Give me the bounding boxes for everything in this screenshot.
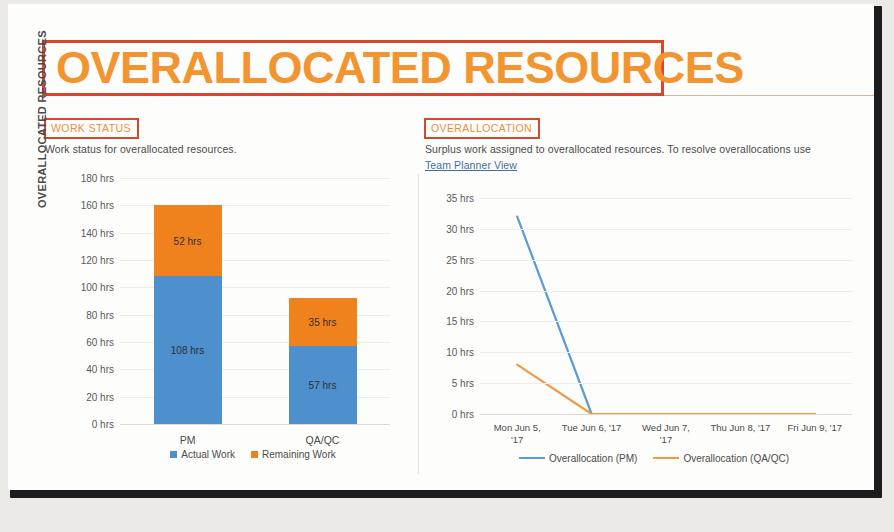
legend-label: Overallocation (QA/QC) xyxy=(683,453,789,464)
y-axis-tick-label: 5 hrs xyxy=(452,378,474,389)
bar-value-label: 108 hrs xyxy=(154,345,222,356)
y-axis-tick-label: 20 hrs xyxy=(446,285,474,296)
legend-label: Overallocation (PM) xyxy=(549,453,637,464)
x-axis-tick-label-line: '17 xyxy=(480,434,554,446)
x-axis-tick-label-line: Wed Jun 7, xyxy=(629,422,703,434)
y-axis-tick-label: 35 hrs xyxy=(446,193,474,204)
gridline xyxy=(480,260,852,261)
y-axis-tick-label: 80 hrs xyxy=(86,309,114,320)
line-chart-plot-area: 0 hrs5 hrs10 hrs15 hrs20 hrs25 hrs30 hrs… xyxy=(480,198,852,414)
x-axis-tick-label-line: Thu Jun 8, '17 xyxy=(703,422,777,434)
x-axis-baseline xyxy=(480,414,852,415)
gridline xyxy=(480,352,852,353)
overallocation-label-annotation-box: OVERALLOCATION xyxy=(424,118,540,139)
bar-chart-legend: Actual WorkRemaining Work xyxy=(108,446,398,462)
legend-line-icon xyxy=(653,457,679,460)
bar-column[interactable]: 108 hrs52 hrs xyxy=(154,178,222,424)
line-chart-svg xyxy=(480,198,852,414)
x-axis-tick-label-line: Mon Jun 5, xyxy=(480,422,554,434)
legend-line-icon xyxy=(519,457,545,460)
x-axis-tick-label: PM xyxy=(138,434,238,446)
y-axis-tick-label: 160 hrs xyxy=(81,200,114,211)
y-axis-tick-label: 0 hrs xyxy=(452,409,474,420)
gridline xyxy=(480,291,852,292)
line-series[interactable] xyxy=(517,365,815,414)
x-axis-tick-label: Tue Jun 6, '17 xyxy=(554,422,628,434)
bar-segment[interactable]: 108 hrs xyxy=(154,276,222,424)
bar-column[interactable]: 57 hrs35 hrs xyxy=(289,178,357,424)
page-title: OVERALLOCATED RESOURCES xyxy=(56,42,744,94)
gridline xyxy=(480,383,852,384)
x-axis-tick-label-line: Tue Jun 6, '17 xyxy=(554,422,628,434)
legend-item[interactable]: Overallocation (PM) xyxy=(519,453,637,464)
bar-chart-plot-area: 0 hrs20 hrs40 hrs60 hrs80 hrs100 hrs120 … xyxy=(120,178,390,424)
bar-segment[interactable]: 52 hrs xyxy=(154,205,222,276)
y-axis-tick-label: 25 hrs xyxy=(446,254,474,265)
legend-item[interactable]: Remaining Work xyxy=(251,449,336,460)
x-axis-tick-label: Mon Jun 5,'17 xyxy=(480,422,554,446)
y-axis-tick-label: 120 hrs xyxy=(81,255,114,266)
bar-value-label: 57 hrs xyxy=(289,380,357,391)
gridline xyxy=(480,321,852,322)
y-axis-tick-label: 100 hrs xyxy=(81,282,114,293)
title-underline-rule xyxy=(664,95,874,96)
line-series[interactable] xyxy=(517,217,815,414)
y-axis-tick-label: 15 hrs xyxy=(446,316,474,327)
y-axis-tick-label: 30 hrs xyxy=(446,223,474,234)
legend-label: Actual Work xyxy=(181,449,235,460)
page-title-block: OVERALLOCATED RESOURCES xyxy=(42,40,664,96)
y-axis-tick-label: 40 hrs xyxy=(86,364,114,375)
bar-value-label: 52 hrs xyxy=(154,235,222,246)
legend-swatch-icon xyxy=(170,451,177,458)
legend-item[interactable]: Actual Work xyxy=(170,449,235,460)
y-axis-tick-label: 180 hrs xyxy=(81,173,114,184)
y-axis-tick-label: 0 hrs xyxy=(92,419,114,430)
line-chart-legend: Overallocation (PM)Overallocation (QA/QC… xyxy=(454,450,854,466)
overallocation-section-label: OVERALLOCATION xyxy=(431,122,532,134)
bar-chart-y-axis-title: OVERALLOCATED RESOURCES xyxy=(36,8,48,208)
y-axis-tick-label: 20 hrs xyxy=(86,391,114,402)
legend-label: Remaining Work xyxy=(262,449,336,460)
x-axis-tick-label: Thu Jun 8, '17 xyxy=(703,422,777,434)
bar-segment[interactable]: 35 hrs xyxy=(289,298,357,346)
x-axis-tick-label-line: Fri Jun 9, '17 xyxy=(778,422,852,434)
overallocation-panel: OVERALLOCATION Surplus work assigned to … xyxy=(418,116,868,478)
work-status-description: Work status for overallocated resources. xyxy=(45,142,237,156)
dashboard-page: OVERALLOCATED RESOURCES WORK STATUS Work… xyxy=(8,4,874,490)
team-planner-view-link[interactable]: Team Planner View xyxy=(425,158,517,172)
gridline xyxy=(480,198,852,199)
gridline xyxy=(480,229,852,230)
work-status-label-annotation-box: WORK STATUS xyxy=(44,118,139,139)
work-status-panel: WORK STATUS Work status for overallocate… xyxy=(38,116,406,478)
work-status-section-label: WORK STATUS xyxy=(51,122,131,134)
bar-segment[interactable]: 57 hrs xyxy=(289,346,357,424)
x-axis-tick-label: Wed Jun 7,'17 xyxy=(629,422,703,446)
bar-value-label: 35 hrs xyxy=(289,317,357,328)
x-axis-baseline xyxy=(120,424,390,425)
panel-divider xyxy=(418,174,419,474)
x-axis-tick-label-line: '17 xyxy=(629,434,703,446)
x-axis-tick-label: Fri Jun 9, '17 xyxy=(778,422,852,434)
overallocation-description: Surplus work assigned to overallocated r… xyxy=(425,142,811,156)
y-axis-tick-label: 60 hrs xyxy=(86,337,114,348)
scanned-page-frame: OVERALLOCATED RESOURCES WORK STATUS Work… xyxy=(0,0,894,532)
y-axis-tick-label: 140 hrs xyxy=(81,227,114,238)
y-axis-tick-label: 10 hrs xyxy=(446,347,474,358)
legend-item[interactable]: Overallocation (QA/QC) xyxy=(653,453,789,464)
x-axis-tick-label: QA/QC xyxy=(273,434,373,446)
legend-swatch-icon xyxy=(251,451,258,458)
